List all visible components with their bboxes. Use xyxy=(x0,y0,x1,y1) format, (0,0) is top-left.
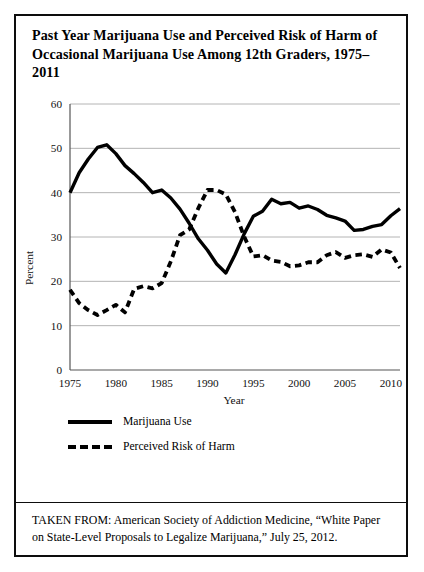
y-axis-label: Percent xyxy=(23,250,35,285)
legend-swatch-solid-line-icon xyxy=(68,420,112,424)
y-tick-label: 30 xyxy=(51,231,63,243)
source-block: TAKEN FROM: American Society of Addictio… xyxy=(16,503,406,555)
x-tick-labels: 19751980198519901995200020052010 xyxy=(59,377,403,389)
y-tick-labels: 0102030405060 xyxy=(51,98,63,376)
legend-label: Perceived Risk of Harm xyxy=(123,441,235,453)
gridlines-group xyxy=(70,104,400,326)
x-tick-label: 1995 xyxy=(242,377,265,389)
legend-swatch-dashed-line-icon xyxy=(68,445,112,449)
y-tick-label: 0 xyxy=(56,364,62,376)
x-tick-label: 1975 xyxy=(59,377,82,389)
data-series-group xyxy=(70,145,400,315)
y-tick-label: 10 xyxy=(51,319,63,331)
y-tick-label: 50 xyxy=(51,142,63,154)
chart-plot-area: 0102030405060 19751980198519901995200020… xyxy=(16,88,406,408)
figure-card: Past Year Marijuana Use and Perceived Ri… xyxy=(14,14,408,557)
x-tick-label: 1980 xyxy=(105,377,128,389)
chart-legend: Marijuana Use Perceived Risk of Harm xyxy=(16,408,406,460)
legend-label: Marijuana Use xyxy=(123,416,192,428)
figure-title: Past Year Marijuana Use and Perceived Ri… xyxy=(32,26,392,82)
x-tick-label: 2010 xyxy=(380,377,403,389)
x-tick-label: 1990 xyxy=(196,377,219,389)
legend-item-marijuana-use: Marijuana Use xyxy=(68,410,406,435)
x-tick-label: 2005 xyxy=(334,377,357,389)
line-chart: 0102030405060 19751980198519901995200020… xyxy=(16,88,410,408)
y-tick-label: 40 xyxy=(51,186,63,198)
x-tick-label: 1985 xyxy=(150,377,173,389)
source-attribution: TAKEN FROM: American Society of Addictio… xyxy=(32,512,392,545)
y-tick-label: 60 xyxy=(51,98,63,110)
x-tick-label: 2000 xyxy=(288,377,311,389)
x-axis-label: Year xyxy=(224,394,245,406)
legend-item-perceived-risk-of-harm: Perceived Risk of Harm xyxy=(68,435,406,460)
title-block: Past Year Marijuana Use and Perceived Ri… xyxy=(16,16,406,88)
y-tick-label: 20 xyxy=(51,275,63,287)
